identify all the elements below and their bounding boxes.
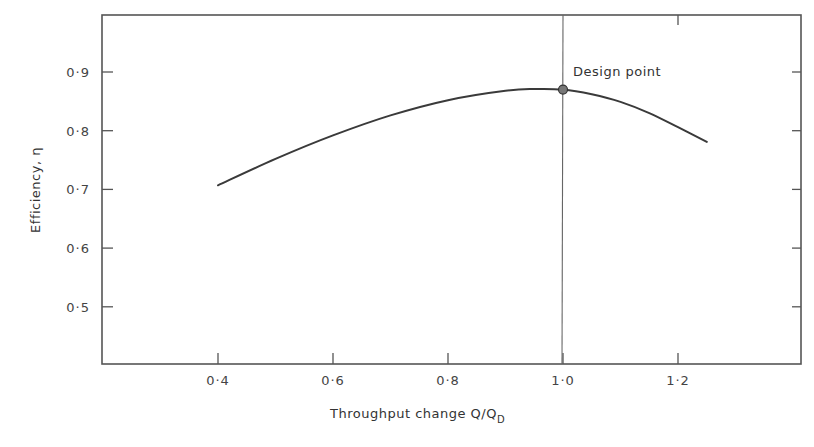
x-tick-label: 1·2 (666, 373, 690, 388)
y-tick-label: 0·6 (66, 241, 90, 256)
x-tick-label: 0·8 (436, 373, 460, 388)
design-point-marker (559, 85, 568, 94)
y-axis-title: Efficiency, η (28, 147, 43, 233)
efficiency-chart: 0·50·60·70·80·9 0·40·60·81·01·2 Design p… (0, 0, 814, 447)
plot-frame (102, 15, 801, 364)
x-axis-title: Throughput change Q/QD (329, 406, 505, 425)
y-tick-label: 0·7 (66, 182, 90, 197)
design-point-line (562, 15, 563, 364)
x-tick-label: 0·6 (321, 373, 345, 388)
x-tick-label: 1·0 (551, 373, 575, 388)
x-tick-label: 0·4 (206, 373, 230, 388)
y-tick-label: 0·5 (66, 300, 90, 315)
efficiency-curve (218, 89, 707, 185)
y-tick-label: 0·8 (66, 124, 90, 139)
x-axis-title-main: Throughput change Q/Q (329, 406, 497, 421)
design-point-label: Design point (573, 64, 661, 79)
y-tick-label: 0·9 (66, 65, 90, 80)
x-axis-title-subscript: D (497, 414, 505, 425)
